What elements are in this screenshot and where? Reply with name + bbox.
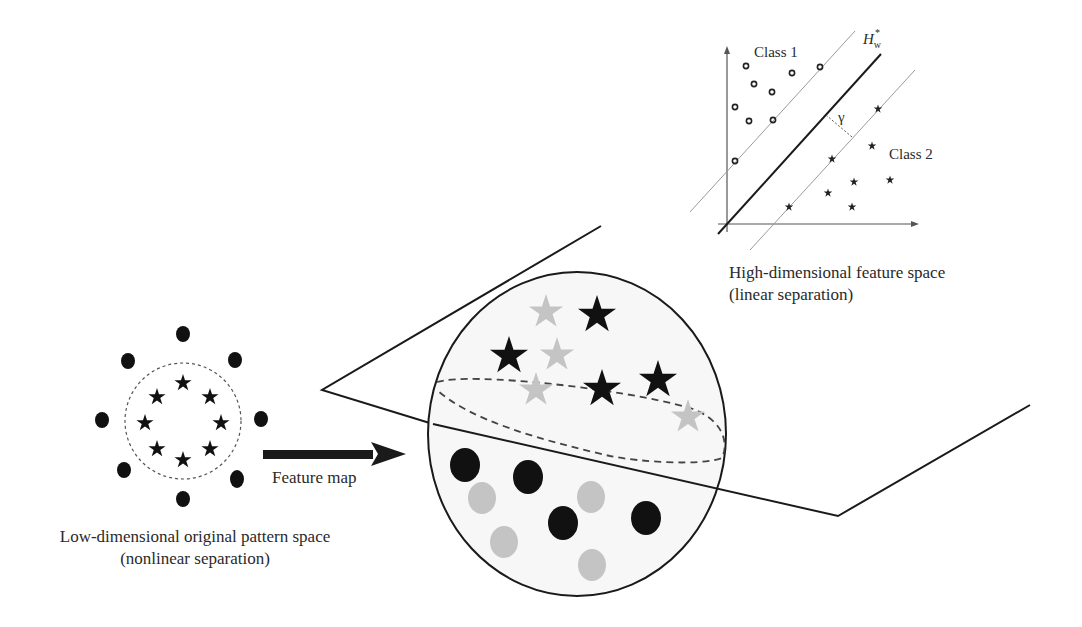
hyperplane-label-sup: * — [875, 27, 880, 38]
dot-icon — [577, 481, 605, 513]
dot-icon — [176, 326, 190, 342]
low-space-caption-line2: (nonlinear separation) — [20, 548, 370, 570]
feature-map-label: Feature map — [272, 468, 357, 488]
class2-label: Class 2 — [889, 146, 933, 162]
dot-icon — [578, 549, 606, 581]
circle-icon — [751, 81, 756, 86]
class1-label: Class 1 — [754, 44, 798, 60]
x-axis-arrow-icon — [911, 221, 919, 227]
star-icon — [148, 440, 165, 456]
inner-stars — [136, 374, 229, 467]
margin-gamma-label: γ — [837, 109, 845, 125]
feature-map-arrow — [263, 442, 406, 466]
dot-icon — [468, 482, 496, 514]
hyperplane-label: Hw* — [862, 27, 882, 50]
star-icon — [868, 142, 877, 150]
circle-icon — [770, 117, 775, 122]
star-icon — [828, 155, 837, 163]
dot-icon — [121, 353, 135, 369]
circle-icon — [746, 118, 751, 123]
circle-icon — [789, 70, 794, 75]
hyperplane-label-sub: w — [874, 39, 882, 50]
dot-icon — [490, 526, 518, 558]
dot-icon — [450, 448, 480, 482]
dot-icon — [631, 501, 661, 535]
dot-icon — [117, 462, 131, 478]
star-icon — [201, 440, 218, 456]
dot-icon — [228, 352, 242, 368]
high-space-caption: High-dimensional feature space (linear s… — [729, 262, 1029, 306]
y-axis-arrow-icon — [724, 46, 730, 54]
high-space-caption-line1: High-dimensional feature space — [729, 262, 1029, 284]
dot-icon — [254, 411, 268, 427]
star-icon — [886, 176, 895, 184]
star-icon — [148, 388, 165, 404]
dot-icon — [548, 506, 578, 540]
low-space-caption-line1: Low-dimensional original pattern space — [20, 526, 370, 548]
star-icon — [874, 105, 883, 113]
star-icon — [174, 374, 191, 390]
low-space-caption: Low-dimensional original pattern space (… — [20, 526, 370, 570]
dot-icon — [176, 491, 190, 507]
outer-dots — [95, 326, 268, 507]
circle-icon — [769, 89, 774, 94]
hyperplane-line — [718, 54, 881, 234]
dot-icon — [513, 460, 543, 494]
star-icon — [850, 178, 859, 186]
circle-icon — [732, 104, 737, 109]
star-icon — [212, 414, 229, 430]
star-icon — [848, 203, 857, 211]
circle-icon — [732, 158, 737, 163]
star-icon — [824, 189, 833, 197]
high-space-caption-line2: (linear separation) — [729, 284, 1029, 306]
star-icon — [136, 414, 153, 430]
linear-separation-plot: γ Class 1 Class 2 Hw* — [690, 27, 933, 250]
star-icon — [174, 451, 191, 467]
class1-points — [732, 63, 822, 163]
circle-icon — [743, 63, 748, 68]
low-dimensional-space — [95, 326, 268, 507]
circle-icon — [817, 64, 822, 69]
dot-icon — [95, 412, 109, 428]
star-icon — [201, 388, 218, 404]
dot-icon — [230, 470, 244, 488]
